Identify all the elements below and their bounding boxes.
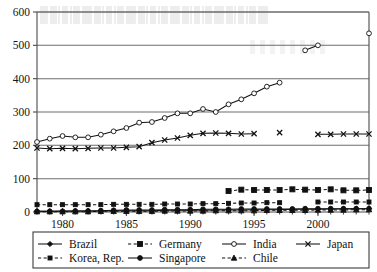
data-point [316, 43, 321, 48]
data-point [175, 202, 179, 206]
data-point [98, 132, 103, 137]
ytick-label-300: 300 [13, 106, 31, 118]
data-point [73, 203, 77, 207]
data-point [162, 116, 167, 121]
ytick-label-100: 100 [13, 173, 31, 185]
data-point [226, 102, 231, 107]
data-point [150, 202, 154, 206]
legend-marker [138, 242, 143, 247]
legend-item-chile[interactable]: Chile [222, 252, 278, 264]
data-point [329, 200, 333, 204]
data-point [213, 110, 218, 115]
data-point [227, 201, 231, 205]
data-point [239, 187, 244, 192]
ytick-label-400: 400 [13, 73, 31, 85]
data-point [354, 200, 358, 204]
data-point [226, 189, 231, 194]
legend-marker [232, 242, 237, 247]
data-point [252, 91, 257, 96]
data-point [367, 200, 371, 204]
series-line [37, 133, 254, 149]
legend-label: Singapore [159, 252, 206, 265]
data-point [303, 187, 308, 192]
data-point [328, 187, 333, 192]
data-point [214, 202, 218, 206]
legend-label: Chile [253, 252, 278, 264]
data-point [354, 188, 359, 193]
legend-item-india[interactable]: India [222, 238, 277, 250]
data-point [73, 135, 78, 140]
series-india [35, 31, 372, 144]
legend-label: Japan [327, 238, 353, 251]
data-point [99, 203, 103, 207]
ytick-label-500: 500 [13, 39, 31, 51]
data-point [188, 111, 193, 116]
data-point [86, 135, 91, 140]
legend-item-germany[interactable]: Germany [128, 238, 202, 251]
data-point [303, 48, 308, 53]
data-point [239, 201, 243, 205]
data-point [278, 201, 282, 205]
xtick-label-1990: 1990 [179, 218, 202, 230]
data-point [290, 187, 295, 192]
ytick-label-0: 0 [24, 206, 30, 218]
xtick-label-1985: 1985 [115, 218, 138, 230]
data-point [341, 188, 346, 193]
legend-item-brazil[interactable]: Brazil [38, 238, 97, 250]
data-point [35, 203, 39, 207]
data-point [137, 202, 141, 206]
data-point [60, 134, 65, 139]
data-point [252, 188, 257, 193]
legend-marker [138, 256, 143, 261]
data-point [316, 200, 320, 204]
data-point [201, 202, 205, 206]
xtick-label-2000: 2000 [306, 218, 329, 230]
legend-marker [48, 256, 52, 260]
xtick-label-1995: 1995 [243, 218, 266, 230]
series-japan [34, 130, 371, 151]
data-point [277, 188, 282, 193]
data-point [341, 200, 345, 204]
data-point [150, 120, 155, 125]
data-point [239, 97, 244, 102]
ytick-label-600: 600 [13, 6, 31, 18]
legend-item-korea-rep[interactable]: Korea, Rep. [38, 252, 124, 265]
data-point [367, 31, 372, 36]
data-point [124, 126, 129, 131]
legend-marker [47, 241, 52, 246]
data-point [201, 107, 206, 112]
data-point [111, 129, 116, 134]
series-chile [34, 207, 371, 214]
legend-label: India [253, 238, 277, 250]
data-point [264, 84, 269, 89]
data-point [175, 111, 180, 116]
data-point [264, 188, 269, 193]
data-point [277, 80, 282, 85]
data-point [163, 202, 167, 206]
data-point [265, 201, 269, 205]
data-point [252, 201, 256, 205]
legend-label: Brazil [69, 238, 97, 250]
series-germany [226, 187, 371, 194]
data-point [86, 203, 90, 207]
data-point [47, 136, 52, 141]
data-point [137, 120, 142, 125]
chart-canvas: 010020030040050060019801985199019952000B… [0, 0, 377, 272]
legend-item-japan[interactable]: Japan [296, 238, 353, 251]
line-chart: 010020030040050060019801985199019952000B… [0, 0, 377, 272]
data-point [367, 188, 372, 193]
data-point [188, 202, 192, 206]
data-point [277, 130, 282, 135]
xtick-label-1980: 1980 [51, 218, 74, 230]
data-point [48, 203, 52, 207]
legend-label: Germany [159, 238, 202, 251]
legend-label: Korea, Rep. [69, 252, 124, 265]
legend-item-singapore[interactable]: Singapore [128, 252, 206, 265]
data-point [61, 203, 65, 207]
series-line [229, 189, 369, 191]
data-point [112, 202, 116, 206]
data-point [35, 140, 40, 145]
ytick-label-200: 200 [13, 139, 31, 151]
series-korea-rep [35, 200, 371, 207]
data-point [124, 202, 128, 206]
